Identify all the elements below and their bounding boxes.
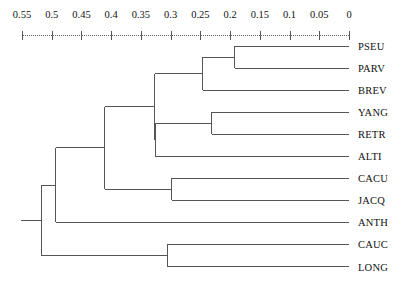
leaf-label-cacu: CACU [358, 173, 388, 184]
leaf-label-alti: ALTI [358, 151, 382, 162]
leaf-label-pseu: PSEU [358, 41, 384, 52]
leaf-label-anth: ANTH [358, 217, 388, 228]
leaf-label-cauc: CAUC [358, 239, 388, 250]
leaf-label-retr: RETR [358, 129, 386, 140]
leaf-label-brev: BREV [358, 85, 387, 96]
leaf-label-yang: YANG [358, 107, 388, 118]
dendrogram-tree [0, 0, 403, 297]
leaf-label-jacq: JACQ [358, 195, 385, 206]
leaf-label-parv: PARV [358, 63, 385, 74]
leaf-label-long: LONG [358, 261, 388, 272]
dendrogram-figure: 0.550.50.450.40.350.30.250.20.150.10.050… [0, 0, 403, 297]
